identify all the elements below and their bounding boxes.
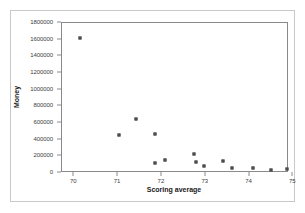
- data-point: [163, 158, 166, 161]
- x-tick-label: 75: [289, 178, 296, 184]
- y-tick-label: 1600000: [30, 36, 53, 42]
- y-tick-label: 1200000: [30, 69, 53, 75]
- data-point: [193, 153, 196, 156]
- x-tick-label: 70: [70, 178, 77, 184]
- data-point: [285, 167, 288, 170]
- y-tick-label: 800000: [34, 102, 53, 108]
- data-point: [194, 160, 197, 163]
- y-tick-label: 1800000: [30, 19, 53, 25]
- data-point: [134, 118, 137, 121]
- scatter-plot-figure: 0200000400000600000800000100000012000001…: [0, 0, 305, 213]
- data-point: [252, 167, 255, 170]
- x-tick-mark: [160, 172, 161, 176]
- x-tick-label: 72: [158, 178, 165, 184]
- y-tick-label: 400000: [34, 136, 53, 142]
- x-tick-label: 73: [201, 178, 208, 184]
- y-axis-title: Money: [13, 86, 20, 108]
- data-point: [78, 36, 81, 39]
- plot-panel: [61, 22, 288, 172]
- data-point: [154, 132, 157, 135]
- data-points-layer: [62, 23, 287, 171]
- y-tick-label: 1000000: [30, 86, 53, 92]
- x-tick-label: 74: [245, 178, 252, 184]
- x-tick-mark: [248, 172, 249, 176]
- data-point: [222, 160, 225, 163]
- data-point: [117, 134, 120, 137]
- x-axis-title: Scoring average: [147, 186, 201, 193]
- x-tick-mark: [117, 172, 118, 176]
- data-point: [270, 168, 273, 171]
- x-tick-mark: [292, 172, 293, 176]
- y-tick-label: 1400000: [30, 52, 53, 58]
- data-point: [202, 164, 205, 167]
- y-tick-label: 600000: [34, 119, 53, 125]
- data-point: [154, 162, 157, 165]
- x-tick-label: 71: [114, 178, 121, 184]
- y-tick-label: 200000: [34, 152, 53, 158]
- data-point: [231, 166, 234, 169]
- x-tick-mark: [73, 172, 74, 176]
- x-tick-mark: [204, 172, 205, 176]
